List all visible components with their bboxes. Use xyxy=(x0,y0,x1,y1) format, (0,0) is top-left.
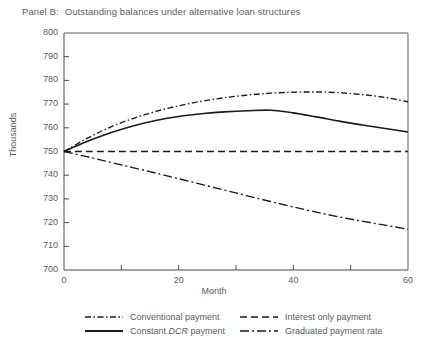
y-tick-label: 700 xyxy=(28,265,58,274)
legend-label: Constant DCR payment xyxy=(130,326,225,336)
y-tick-label: 720 xyxy=(28,218,58,227)
y-tick-label: 760 xyxy=(28,123,58,132)
series-line-graduated-payment-rate xyxy=(64,152,408,230)
legend-label: Conventional payment xyxy=(130,312,220,322)
y-tick-label: 740 xyxy=(28,170,58,179)
legend-label: Graduated payment rate xyxy=(285,326,383,336)
legend-item-constant-dcr-payment: Constant DCR payment xyxy=(84,324,239,338)
y-tick-label: 790 xyxy=(28,52,58,61)
series-line-conventional-payment xyxy=(64,92,408,152)
x-tick-label: 0 xyxy=(49,276,79,285)
x-tick-label: 20 xyxy=(164,276,194,285)
series-line-constant-dcr-payment xyxy=(64,110,408,151)
legend-line-sample-solid xyxy=(84,326,124,336)
y-tick-label: 710 xyxy=(28,241,58,250)
x-axis-title: Month xyxy=(0,286,428,296)
legend-line-sample-dash-dot xyxy=(84,312,124,322)
legend-item-graduated-payment-rate: Graduated payment rate xyxy=(239,324,384,338)
legend-row: Constant DCR payment Graduated payment r… xyxy=(84,324,384,338)
chart-legend: Conventional payment Interest only payme… xyxy=(84,310,384,338)
y-axis-title: Thousands xyxy=(8,90,18,180)
legend-line-sample-dashed xyxy=(239,312,279,322)
chart-svg xyxy=(0,0,428,351)
x-tick-label: 60 xyxy=(393,276,423,285)
y-tick-label: 780 xyxy=(28,75,58,84)
legend-label: Interest only payment xyxy=(285,312,371,322)
y-tick-label: 750 xyxy=(28,147,58,156)
chart-plot-area: Thousands Month 800790780770760750740730… xyxy=(0,0,428,351)
y-tick-label: 770 xyxy=(28,99,58,108)
x-tick-label: 40 xyxy=(278,276,308,285)
legend-item-conventional-payment: Conventional payment xyxy=(84,310,239,324)
legend-item-interest-only-payment: Interest only payment xyxy=(239,310,384,324)
legend-row: Conventional payment Interest only payme… xyxy=(84,310,384,324)
y-tick-label: 800 xyxy=(28,28,58,37)
y-tick-label: 730 xyxy=(28,194,58,203)
legend-line-sample-long-dash-dot xyxy=(239,326,279,336)
